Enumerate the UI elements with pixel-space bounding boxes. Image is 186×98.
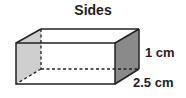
left-side-face	[16, 29, 41, 84]
height-label: 1 cm	[145, 45, 175, 60]
depth-label: 2.5 cm	[133, 75, 173, 90]
